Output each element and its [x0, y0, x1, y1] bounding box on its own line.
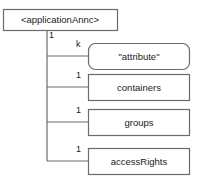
multiplicity-label-groups: 1: [76, 106, 81, 115]
multiplicity-label-attribute: k: [76, 40, 81, 49]
multiplicity-label-accessrights: 1: [76, 145, 81, 154]
child-node-label-attribute: "attribute": [88, 43, 190, 69]
root-node-label: <applicationAnnc>: [3, 9, 117, 30]
child-node-label-groups: groups: [88, 109, 190, 135]
child-node-label-accessrights: accessRights: [88, 148, 190, 174]
child-node-label-containers: containers: [88, 74, 190, 100]
diagram-canvas: <applicationAnnc> 1 k 1 1 1 "attribute" …: [0, 0, 198, 186]
multiplicity-label-root: 1: [49, 31, 54, 40]
multiplicity-label-containers: 1: [76, 71, 81, 80]
